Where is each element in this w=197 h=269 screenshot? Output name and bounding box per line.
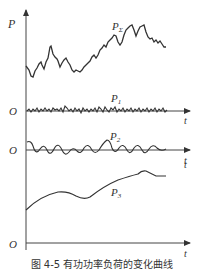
- p2-curve: [27, 140, 166, 154]
- p2-label: P2: [109, 130, 121, 144]
- p-sigma-curve: [26, 25, 166, 77]
- p1-label: P1: [110, 92, 121, 106]
- p3-origin-label: O: [9, 238, 17, 250]
- p2-origin-label: O: [9, 144, 17, 156]
- p1-origin-label: O: [9, 105, 17, 117]
- p3-time-label: t: [184, 248, 187, 259]
- p1-time-label: t: [184, 115, 187, 126]
- p1-curve: [27, 106, 167, 113]
- p3-curve: [26, 171, 166, 210]
- p3-top-time-label: t: [184, 159, 187, 170]
- p-sigma-label: PΣ: [111, 20, 124, 34]
- load-curves-figure: P PΣ O t P1 O t P2 O t t P3 图 4-5 有功功率负荷…: [0, 0, 197, 269]
- p3-label: P3: [110, 186, 122, 200]
- figure-caption: 图 4-5 有功功率负荷的变化曲线: [31, 258, 174, 269]
- y-axis-label: P: [7, 17, 16, 31]
